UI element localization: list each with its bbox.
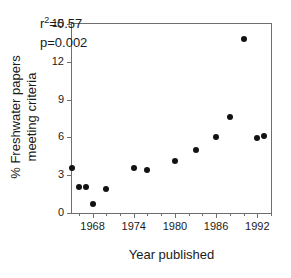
x-axis-major-tick: 1992	[257, 213, 258, 218]
x-axis-major-tick: 1986	[216, 213, 217, 218]
y-axis-tick: 6	[67, 137, 72, 138]
p-value-annotation: p=0.002	[40, 33, 87, 52]
x-axis-minor-tick	[202, 213, 203, 216]
data-point	[213, 134, 219, 140]
x-axis-minor-tick	[106, 213, 107, 216]
x-axis-tick-label: 1980	[163, 220, 187, 233]
x-axis-minor-tick	[244, 213, 245, 216]
y-axis-tick: 3	[67, 175, 72, 176]
x-axis-minor-tick	[79, 213, 80, 216]
data-point	[261, 133, 267, 139]
data-point	[144, 167, 150, 173]
x-axis-minor-tick	[120, 213, 121, 216]
x-axis-tick-label: 1986	[204, 220, 228, 233]
data-point	[131, 165, 137, 171]
x-axis-tick-label: 1974	[122, 220, 146, 233]
x-axis-major-tick: 1968	[93, 213, 94, 218]
y-axis-tick: 9	[67, 100, 72, 101]
y-axis-title-line-2: meeting criteria	[24, 17, 40, 217]
data-point	[227, 114, 233, 120]
x-axis-tick-label: 1968	[80, 220, 104, 233]
x-axis-title: Year published	[71, 247, 272, 262]
y-axis-tick-label: 0	[58, 206, 64, 219]
x-axis-tick-label: 1992	[245, 220, 269, 233]
r-squared-annotation: r2=0.57	[40, 14, 87, 33]
y-axis-title-line-1: % Freshwater papers	[8, 17, 24, 217]
x-axis-minor-tick	[161, 213, 162, 216]
data-point	[69, 165, 75, 171]
y-axis-tick-label: 12	[52, 55, 64, 68]
scatter-plot-figure: 0369121519681974198019861992 r2=0.57 p=0…	[0, 0, 291, 278]
data-point	[241, 36, 247, 42]
x-axis-minor-tick	[189, 213, 190, 216]
data-point	[90, 201, 96, 207]
x-axis-minor-tick	[230, 213, 231, 216]
data-point	[193, 147, 199, 153]
y-axis-tick-label: 6	[58, 130, 64, 143]
x-axis-major-tick: 1974	[134, 213, 135, 218]
x-axis-major-tick: 1980	[175, 213, 176, 218]
data-point	[254, 135, 260, 141]
plot-area: 0369121519681974198019861992	[71, 23, 272, 214]
y-axis-tick: 0	[67, 213, 72, 214]
y-axis-tick: 12	[67, 62, 72, 63]
r-squared-value: =0.57	[49, 16, 82, 31]
statistics-annotations: r2=0.57 p=0.002	[40, 14, 87, 52]
data-point	[172, 158, 178, 164]
x-axis-minor-tick	[147, 213, 148, 216]
data-point	[103, 186, 109, 192]
y-axis-tick-label: 3	[58, 168, 64, 181]
y-axis-tick-label: 9	[58, 93, 64, 106]
data-point	[83, 184, 89, 190]
x-axis-minor-tick	[271, 213, 272, 216]
y-axis-title: % Freshwater papers meeting criteria	[8, 17, 40, 217]
data-point	[76, 184, 82, 190]
